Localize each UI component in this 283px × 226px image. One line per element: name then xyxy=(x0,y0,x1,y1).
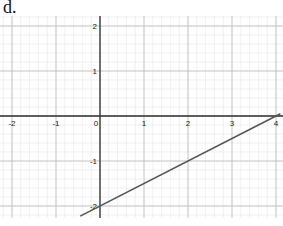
x-tick-label: 4 xyxy=(274,119,279,128)
graph: -2-10123421-1-2 xyxy=(0,0,283,226)
y-tick-label: -1 xyxy=(90,157,98,166)
x-tick-label: 2 xyxy=(186,119,191,128)
x-tick-label: 0 xyxy=(94,119,99,128)
x-tick-label: -2 xyxy=(8,119,16,128)
x-tick-label: -1 xyxy=(52,119,60,128)
x-tick-label: 3 xyxy=(230,119,235,128)
plotted-line xyxy=(80,114,280,216)
y-tick-label: 2 xyxy=(93,22,98,31)
y-tick-label: 1 xyxy=(93,67,98,76)
x-tick-label: 1 xyxy=(142,119,147,128)
